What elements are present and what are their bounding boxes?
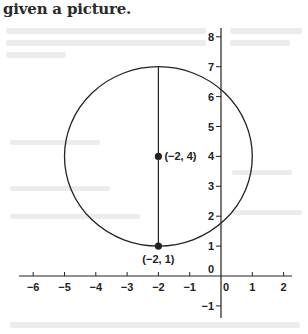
x-tick-label: −6 bbox=[27, 281, 40, 293]
labeled-points: (−2, 4)(−2, 1) bbox=[142, 150, 196, 265]
y-tick-label: 0 bbox=[208, 263, 214, 275]
y-tick-label: 1 bbox=[208, 240, 214, 252]
point-marker bbox=[155, 243, 162, 250]
point-label: (−2, 4) bbox=[164, 150, 196, 162]
x-tick-label: −2 bbox=[152, 281, 165, 293]
x-tick-label: 2 bbox=[281, 281, 287, 293]
point-label: (−2, 1) bbox=[142, 253, 174, 265]
y-tick-label: 8 bbox=[208, 31, 214, 43]
coordinate-plane: −6−5−4−3−2−1012 −1012345678 (−2, 4)(−2, … bbox=[0, 0, 308, 334]
y-axis-ticks bbox=[216, 37, 221, 306]
y-tick-label: 4 bbox=[208, 150, 215, 162]
y-tick-label: 2 bbox=[208, 210, 214, 222]
x-axis-tick-labels: −6−5−4−3−2−1012 bbox=[27, 281, 287, 293]
x-tick-label: −3 bbox=[121, 281, 134, 293]
y-tick-label: 5 bbox=[208, 121, 214, 133]
y-tick-label: 7 bbox=[208, 61, 214, 73]
x-tick-label: 0 bbox=[223, 281, 229, 293]
x-tick-label: 1 bbox=[249, 281, 255, 293]
x-tick-label: −4 bbox=[90, 281, 103, 293]
y-tick-label: 3 bbox=[208, 180, 214, 192]
x-tick-label: −1 bbox=[183, 281, 196, 293]
y-tick-label: −1 bbox=[201, 300, 214, 312]
point-marker bbox=[155, 153, 162, 160]
y-axis-tick-labels: −1012345678 bbox=[201, 31, 214, 312]
y-tick-label: 6 bbox=[208, 91, 214, 103]
x-tick-label: −5 bbox=[58, 281, 71, 293]
